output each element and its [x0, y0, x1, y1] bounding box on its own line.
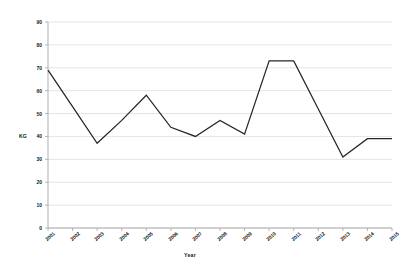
- x-axis-title: Year: [160, 252, 220, 258]
- y-tick-label: 80: [28, 42, 42, 48]
- y-tick-label: 50: [28, 111, 42, 117]
- gridlines: [48, 22, 392, 228]
- y-tick-label: 20: [28, 179, 42, 185]
- y-tick-label: 90: [28, 19, 42, 25]
- y-tick-label: 60: [28, 88, 42, 94]
- y-tick-label: 0: [28, 225, 42, 231]
- y-tick-label: 30: [28, 156, 42, 162]
- y-tick-label: 10: [28, 202, 42, 208]
- data-series-line: [48, 61, 392, 157]
- axis-lines: [48, 22, 392, 228]
- y-tick-label: 70: [28, 65, 42, 71]
- y-axis-title: KG: [12, 133, 34, 139]
- line-chart: 9080706050403020100 20012002200320042005…: [0, 0, 415, 271]
